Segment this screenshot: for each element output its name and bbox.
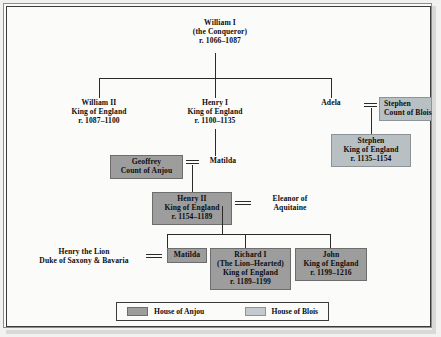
legend-swatch-blois-icon	[245, 307, 266, 316]
node-henry-ii: Henry II King of England r. 1154–1189	[152, 192, 232, 225]
node-line: Count of Blois	[384, 109, 427, 118]
node-line: Count of Anjou	[115, 167, 178, 176]
node-stephen-king-of-england: Stephen King of England r. 1135–1154	[331, 134, 411, 167]
legend-label-blois: House of Blois	[272, 307, 318, 316]
connector-children-bus	[167, 234, 330, 235]
connector-drop-matilda	[167, 234, 168, 248]
connector-drop-adela	[331, 78, 332, 98]
node-geoffrey-count-of-anjou: Geoffrey Count of Anjou	[110, 155, 183, 179]
node-richard-i: Richard I (The Lion–Hearted) King of Eng…	[210, 248, 291, 290]
node-line: r. 1087–1100	[39, 117, 159, 126]
legend: House of Anjou House of Blois	[116, 302, 329, 321]
node-line: Adela	[301, 99, 361, 108]
node-line: Duke of Saxony & Bavaria	[25, 257, 143, 266]
node-william-i: William I (the Conqueror) r. 1066–1087	[150, 19, 290, 46]
frame-shadow-bottom	[6, 330, 436, 334]
connector-drop-henry-i	[215, 78, 216, 98]
node-line: r. 1135–1154	[336, 155, 406, 164]
node-line: Aquitaine	[255, 204, 325, 213]
connector-william-i-drop	[215, 53, 216, 78]
node-line: r. 1199–1216	[300, 269, 362, 278]
node-william-ii: William II King of England r. 1087–1100	[39, 99, 159, 126]
node-eleanor-of-aquitaine: Eleanor of Aquitaine	[255, 195, 325, 213]
connector-drop-john	[330, 234, 331, 248]
node-henry-the-lion: Henry the Lion Duke of Saxony & Bavaria	[25, 248, 143, 266]
legend-label-anjou: House of Anjou	[154, 307, 204, 316]
diagram-canvas: William I (the Conqueror) r. 1066–1087 W…	[7, 7, 430, 326]
marriage-henry-ii-eleanor	[235, 201, 251, 205]
marriage-geoffrey-matilda	[186, 160, 199, 164]
node-matilda-empress: Matilda	[201, 157, 245, 166]
node-line: Matilda	[172, 251, 202, 260]
connector-drop-william-ii	[99, 78, 100, 98]
connector-henry-ii-descent	[222, 206, 223, 234]
node-line: r. 1100–1135	[155, 117, 275, 126]
legend-swatch-anjou-icon	[127, 307, 148, 316]
connector-blois-descent	[371, 108, 372, 134]
node-line: r. 1154–1189	[157, 213, 227, 222]
node-henry-i: Henry I King of England r. 1100–1135	[155, 99, 275, 126]
node-line: r. 1189–1199	[215, 278, 286, 287]
node-adela: Adela	[301, 99, 361, 108]
connector-anjou-descent	[192, 165, 193, 192]
node-line: Matilda	[201, 157, 245, 166]
marriage-adela-stephen	[364, 103, 377, 107]
marriage-henry-lion-matilda	[146, 254, 162, 258]
connector-henry-i-to-matilda	[215, 129, 216, 156]
legend-item-anjou: House of Anjou	[127, 307, 204, 316]
frame-shadow-right	[432, 6, 436, 331]
node-line: r. 1066–1087	[150, 37, 290, 46]
node-stephen-count-of-blois: Stephen Count of Blois	[379, 97, 432, 121]
node-matilda-of-england: Matilda	[167, 248, 207, 263]
legend-item-blois: House of Blois	[245, 307, 318, 316]
connector-drop-richard	[245, 234, 246, 248]
family-tree-diagram: William I (the Conqueror) r. 1066–1087 W…	[0, 0, 441, 337]
node-john: John King of England r. 1199–1216	[295, 248, 367, 281]
